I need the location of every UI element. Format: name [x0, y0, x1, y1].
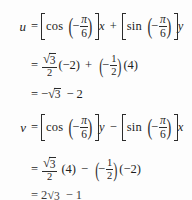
cos-function-1: cos: [46, 19, 63, 34]
paren-group-angle-2: − π 6: [145, 14, 174, 39]
radical-sqrt3-a: √3: [43, 53, 56, 66]
radical-sqrt3-c: √3: [43, 157, 56, 170]
fraction-sqrt3-over-2-a: √3 2: [42, 53, 57, 79]
variable-y-1: y: [178, 19, 184, 34]
equation-line-2: u = √3 2 (−2) + − 1 2: [0, 53, 192, 79]
paren-group-neg-half-b: − 1 2: [93, 158, 119, 181]
sin-function-2: sin: [127, 120, 142, 135]
equation-line-3: u = − √3 − 2: [0, 86, 192, 102]
radicand-3-d: 3: [53, 191, 60, 200]
bracket-group-cos-1: cos − π 6: [41, 14, 99, 39]
paren-group-angle-1: − π 6: [66, 14, 95, 39]
fraction-numerator-1-b: 1: [106, 158, 113, 170]
line5-right-hand-side: √3 2 (4) − − 1 2 (−2): [41, 157, 141, 183]
paren-group-neg-half-a: − 1 2: [97, 54, 123, 77]
variable-v: v: [8, 120, 28, 136]
line2-right-hand-side: √3 2 (−2) + − 1 2 (4): [41, 53, 138, 79]
fraction-pi-over-6-4: π 6: [159, 115, 167, 140]
line6-right-hand-side: 2 √3 − 1: [41, 191, 82, 200]
factor-negative-two-b: (−2): [119, 162, 141, 177]
equation-line-1: u = cos − π 6 x + sin: [0, 14, 192, 39]
plus-operator-2: +: [85, 58, 92, 73]
line3-right-hand-side: − √3 − 2: [41, 87, 83, 102]
fraction-one-over-two-b: 1 2: [106, 158, 113, 181]
fraction-numerator-sqrt3-b: √3: [42, 157, 57, 172]
equals-sign-4: =: [28, 120, 41, 135]
equation-line-6-clipped: v = 2 √3 − 1: [0, 191, 192, 200]
minus-sign-angle-4: −: [151, 120, 158, 135]
equals-sign-3: =: [28, 87, 41, 102]
fraction-denominator-6-4: 6: [160, 128, 166, 140]
fraction-numerator-1-a: 1: [110, 54, 117, 66]
variable-x-1: x: [99, 19, 105, 34]
fraction-numerator-pi-1: π: [80, 14, 88, 27]
bracket-group-sin-2: sin − π 6: [122, 115, 178, 140]
radicand-3-c: 3: [49, 157, 56, 170]
minus-operator-final: −: [66, 191, 73, 200]
equals-sign-5: =: [28, 162, 41, 177]
bracket-group-cos-2: cos − π 6: [41, 115, 99, 140]
minus-sign-half-a: −: [102, 58, 109, 73]
fraction-one-over-two-a: 1 2: [110, 54, 117, 77]
factor-four-a: (4): [123, 58, 138, 73]
factor-negative-two-a: (−2): [58, 58, 80, 73]
paren-group-angle-3: − π 6: [66, 115, 95, 140]
fraction-denominator-2-c: 2: [47, 172, 52, 183]
factor-four-b: (4): [61, 162, 76, 177]
fraction-pi-over-6-3: π 6: [80, 115, 88, 140]
equation-line-5: v = √3 2 (4) − − 1 2: [0, 157, 192, 183]
fraction-numerator-pi-3: π: [80, 115, 88, 128]
fraction-pi-over-6-1: π 6: [80, 14, 88, 39]
result-term-two: 2: [77, 87, 83, 102]
line4-right-hand-side: cos − π 6 y − sin −: [41, 115, 183, 140]
fraction-sqrt3-over-2-b: √3 2: [42, 157, 57, 183]
line1-right-hand-side: cos − π 6 x + sin −: [41, 14, 183, 39]
fraction-denominator-2-a: 2: [47, 68, 52, 79]
equals-sign-1: =: [28, 19, 41, 34]
minus-sign-result-1: −: [41, 87, 48, 102]
radicand-3-a: 3: [49, 53, 56, 66]
minus-operator-2: −: [110, 120, 117, 135]
math-derivation-page: u = cos − π 6 x + sin: [0, 0, 192, 200]
result-term-one: 1: [76, 191, 82, 200]
fraction-pi-over-6-2: π 6: [159, 14, 167, 39]
minus-sign-half-b: −: [98, 162, 105, 177]
fraction-numerator-pi-2: π: [159, 14, 167, 27]
fraction-denominator-6-3: 6: [81, 128, 87, 140]
minus-sign-angle-2: −: [151, 19, 158, 34]
variable-u: u: [8, 19, 28, 35]
fraction-denominator-6-2: 6: [160, 27, 166, 39]
equals-sign-6: =: [28, 191, 41, 200]
minus-sign-angle-1: −: [72, 19, 79, 34]
plus-operator-1: +: [110, 19, 117, 34]
sin-function-1: sin: [127, 19, 142, 34]
fraction-numerator-sqrt3-a: √3: [42, 53, 57, 68]
equals-sign-2: =: [28, 58, 41, 73]
minus-sign-angle-3: −: [72, 120, 79, 135]
radical-sqrt3-d: √3: [47, 191, 60, 200]
cos-function-2: cos: [46, 120, 63, 135]
radicand-3-b: 3: [54, 88, 61, 101]
bracket-group-sin-1: sin − π 6: [122, 14, 178, 39]
minus-operator-result-1: −: [66, 87, 73, 102]
fraction-denominator-2b: 2: [111, 66, 116, 77]
fraction-numerator-pi-4: π: [159, 115, 167, 128]
minus-operator-3: −: [81, 162, 88, 177]
fraction-denominator-6-1: 6: [81, 27, 87, 39]
radical-sqrt3-b: √3: [48, 88, 61, 101]
equation-line-4: v = cos − π 6 y − sin: [0, 115, 192, 140]
paren-group-angle-4: − π 6: [145, 115, 174, 140]
fraction-denominator-2-d: 2: [107, 170, 112, 181]
variable-x-2: x: [178, 120, 184, 135]
variable-y-2: y: [99, 120, 105, 135]
